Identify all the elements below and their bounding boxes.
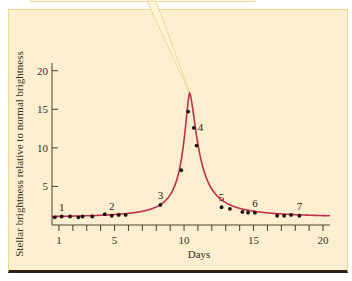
data-point [117, 213, 121, 217]
x-tick-label: 10 [179, 234, 191, 246]
data-point [186, 110, 190, 114]
data-points [53, 110, 301, 219]
x-tick-label: 15 [248, 234, 260, 246]
point-label: 6 [252, 197, 258, 209]
x-tick-label: 1 [56, 234, 62, 246]
data-point [103, 212, 107, 216]
data-point [195, 144, 199, 148]
data-point [81, 215, 85, 219]
data-point [246, 211, 250, 215]
data-point [220, 205, 224, 209]
data-point [159, 203, 163, 207]
data-point [289, 213, 293, 217]
axes: 510152015101520 [37, 63, 330, 246]
y-tick-label: 10 [37, 142, 49, 154]
data-point [282, 214, 286, 218]
y-tick-label: 5 [43, 180, 49, 192]
data-point [275, 214, 279, 218]
y-tick-label: 15 [37, 103, 49, 115]
light-curve-chart: 510152015101520 1234567 Days Stellar bri… [0, 0, 352, 281]
x-tick-label: 20 [318, 234, 330, 246]
point-label: 7 [297, 200, 303, 212]
data-point [53, 215, 57, 219]
point-label: 3 [158, 189, 164, 201]
point-label: 1 [59, 201, 65, 213]
data-point [228, 207, 232, 211]
data-point [241, 210, 245, 214]
data-point [124, 213, 128, 217]
point-label: 5 [219, 191, 225, 203]
x-tick-label: 5 [112, 234, 118, 246]
y-axis-title: Stellar brightness relative to normal br… [13, 51, 25, 257]
brightness-curve [52, 93, 330, 216]
point-label: 4 [198, 121, 204, 133]
data-point [68, 215, 72, 219]
data-point [298, 214, 302, 218]
data-point [110, 214, 114, 218]
x-axis-title: Days [188, 248, 211, 260]
point-label: 2 [109, 200, 115, 212]
callout-pointer [147, 1, 190, 93]
data-point [192, 126, 196, 130]
data-point [253, 211, 257, 215]
data-point [179, 168, 183, 172]
data-point [77, 215, 81, 219]
data-point [60, 215, 64, 219]
y-tick-label: 20 [37, 65, 49, 77]
data-point [90, 215, 94, 219]
point-labels: 1234567 [59, 121, 303, 213]
